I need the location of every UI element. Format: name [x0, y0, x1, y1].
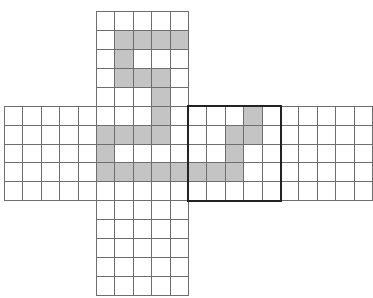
grid-cell [96, 276, 115, 296]
grid-cell [170, 181, 189, 201]
grid-cell [133, 219, 152, 239]
grid-cell [133, 87, 152, 107]
shaded-grid-cell [114, 68, 134, 88]
grid-cell [170, 125, 189, 145]
grid-cell [170, 68, 189, 88]
grid-cell [4, 125, 23, 145]
grid-cell [133, 181, 152, 201]
grid-cell [298, 106, 318, 126]
shaded-grid-cell [133, 30, 152, 50]
grid-cell [114, 87, 134, 107]
grid-cell [133, 257, 152, 277]
shaded-grid-cell [151, 87, 171, 107]
grid-cell [298, 162, 318, 182]
shaded-grid-cell [151, 125, 171, 145]
shaded-grid-cell [96, 144, 115, 163]
grid-cell [59, 162, 79, 182]
grid-cell [188, 144, 207, 163]
shaded-grid-cell [151, 106, 171, 126]
grid-cell [354, 162, 373, 182]
grid-cell [114, 257, 134, 277]
grid-cell [96, 200, 115, 220]
grid-cell [206, 106, 226, 126]
grid-cell [4, 181, 23, 201]
grid-cell [262, 181, 281, 201]
grid-cell [22, 144, 42, 163]
grid-cell [262, 162, 281, 182]
grid-cell [151, 257, 171, 277]
grid-cell [41, 162, 60, 182]
grid-cell [78, 144, 97, 163]
grid-cell [335, 144, 355, 163]
grid-cell [170, 238, 189, 258]
grid-cell [280, 162, 299, 182]
grid-cell [298, 181, 318, 201]
grid-cell [317, 106, 336, 126]
grid-cell [170, 11, 189, 31]
grid-cell [225, 106, 244, 126]
grid-cell [354, 106, 373, 126]
grid-cell [151, 11, 171, 31]
grid-cell [354, 125, 373, 145]
grid-cell [280, 125, 299, 145]
grid-cell [206, 144, 226, 163]
shaded-grid-cell [114, 49, 134, 69]
grid-cell [78, 125, 97, 145]
grid-cell [151, 276, 171, 296]
grid-cell [317, 125, 336, 145]
grid-cell [96, 68, 115, 88]
grid-cell [41, 125, 60, 145]
grid-cell [114, 238, 134, 258]
grid-cell [96, 219, 115, 239]
grid-cell [206, 125, 226, 145]
grid-cell [170, 49, 189, 69]
grid-cell [114, 219, 134, 239]
grid-cell [96, 11, 115, 31]
grid-cell [96, 238, 115, 258]
grid-cell [78, 162, 97, 182]
shaded-grid-cell [96, 162, 115, 182]
grid-cell [262, 144, 281, 163]
shaded-grid-cell [243, 125, 263, 145]
grid-cell [114, 181, 134, 201]
grid-cell [59, 144, 79, 163]
grid-cell [151, 219, 171, 239]
grid-cell [78, 106, 97, 126]
grid-cell [335, 106, 355, 126]
grid-cell [133, 238, 152, 258]
shaded-grid-cell [151, 162, 171, 182]
grid-cell [170, 257, 189, 277]
grid-cell [114, 200, 134, 220]
grid-cell [280, 181, 299, 201]
shaded-grid-cell [206, 162, 226, 182]
grid-cell [151, 238, 171, 258]
grid-cell [96, 49, 115, 69]
grid-cell [96, 257, 115, 277]
grid-cell [280, 106, 299, 126]
grid-cell [188, 106, 207, 126]
grid-cell [151, 49, 171, 69]
grid-cell [133, 49, 152, 69]
grid-cell [170, 87, 189, 107]
grid-cell [298, 144, 318, 163]
grid-cell [59, 106, 79, 126]
grid-cell [317, 181, 336, 201]
grid-cell [170, 219, 189, 239]
grid-cell [170, 144, 189, 163]
grid-cell [151, 144, 171, 163]
grid-cell [96, 181, 115, 201]
grid-cell [188, 181, 207, 201]
shaded-grid-cell [225, 125, 244, 145]
grid-cell [298, 125, 318, 145]
grid-cell [151, 200, 171, 220]
grid-cell [114, 11, 134, 31]
grid-cell [4, 144, 23, 163]
shaded-grid-cell [243, 106, 263, 126]
grid-cell [243, 144, 263, 163]
grid-cell [170, 200, 189, 220]
grid-cell [59, 125, 79, 145]
grid-cell [22, 162, 42, 182]
grid-cell [354, 181, 373, 201]
grid-cell [206, 181, 226, 201]
grid-cell [59, 181, 79, 201]
